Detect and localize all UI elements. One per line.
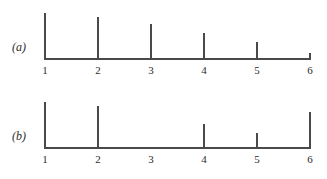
x-tick-label-b-3: 3 xyxy=(148,153,154,165)
stem-b-5 xyxy=(256,133,258,149)
panel-a-label: (a) xyxy=(12,40,26,55)
x-tick-label-b-5: 5 xyxy=(254,153,260,165)
plot-a: 123456 xyxy=(45,8,310,60)
stem-a-6 xyxy=(309,53,311,60)
x-axis-a xyxy=(45,58,310,60)
stem-a-3 xyxy=(150,24,152,60)
panel-b-label: (b) xyxy=(12,129,26,144)
x-tick-label-a-1: 1 xyxy=(42,64,48,76)
stem-b-6 xyxy=(309,112,311,149)
panel-a: (a) 123456 xyxy=(0,0,327,90)
stem-b-2 xyxy=(97,106,99,149)
x-tick-label-a-4: 4 xyxy=(201,64,207,76)
x-tick-label-a-3: 3 xyxy=(148,64,154,76)
x-tick-label-b-2: 2 xyxy=(95,153,101,165)
x-axis-b xyxy=(45,147,310,149)
stem-b-4 xyxy=(203,124,205,149)
stem-b-1 xyxy=(44,102,46,149)
plot-b: 123456 xyxy=(45,97,310,149)
x-tick-label-a-6: 6 xyxy=(307,64,313,76)
x-tick-label-b-6: 6 xyxy=(307,153,313,165)
x-tick-label-b-4: 4 xyxy=(201,153,207,165)
stem-a-4 xyxy=(203,33,205,60)
stem-a-5 xyxy=(256,42,258,60)
panel-b: (b) 123456 xyxy=(0,89,327,179)
stem-a-2 xyxy=(97,17,99,60)
figure-stem-plots: (a) 123456 (b) 123456 xyxy=(0,0,327,179)
stem-a-1 xyxy=(44,13,46,60)
x-tick-label-a-5: 5 xyxy=(254,64,260,76)
x-tick-label-b-1: 1 xyxy=(42,153,48,165)
x-tick-label-a-2: 2 xyxy=(95,64,101,76)
